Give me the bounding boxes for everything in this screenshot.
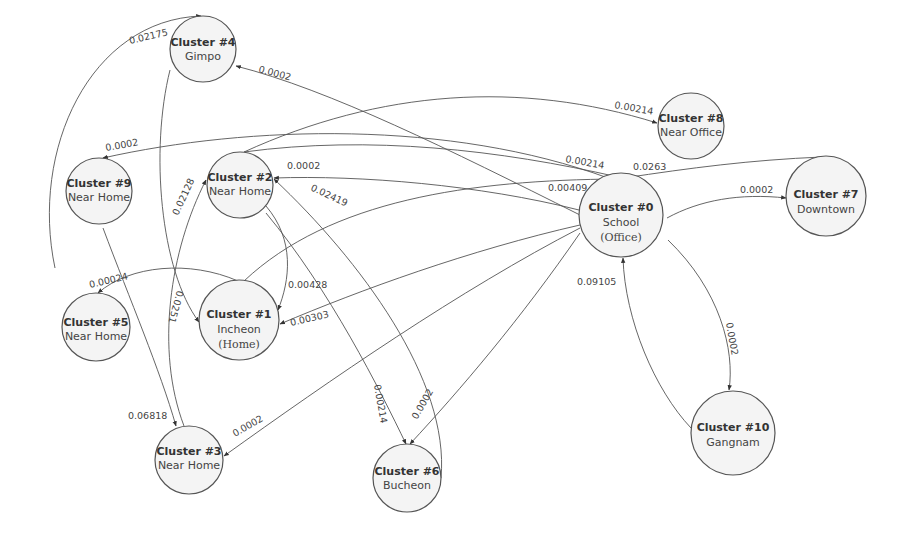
edge-label-c5-c4: 0.02175 [128,26,169,46]
node-cluster-8-near-office: Cluster #8 Near Office [658,93,724,159]
edge-c0-to-c7 [667,196,786,218]
edge-c2-to-c8 [244,97,657,152]
node-subtitle: Gimpo [185,50,221,63]
edge-label-c4-c1: 0.0251 [166,289,185,324]
node-subtitle: Near Office [660,126,722,139]
node-title: Cluster #4 [170,36,235,49]
edge-label-c0-c7: 0.0002 [740,184,773,195]
edge-c1-to-c0 [244,179,618,281]
node-cluster-0-school-office: Cluster #0 School (Office) [579,173,663,257]
node-subtitle: Near Home [209,185,271,198]
edge-label-c0-c9: 0.0002 [104,136,139,153]
node-subtitle: School [603,216,640,229]
edge-c10-to-c0 [623,258,691,428]
node-title: Cluster #9 [66,177,131,190]
node-title: Cluster #0 [588,201,653,214]
edge-label-c7-c0: 0.0263 [633,161,666,172]
edge-label-c2-c6: 0.00214 [372,383,390,424]
node-cluster-1-incheon-home: Cluster #1 Incheon (Home) [199,280,279,360]
node-cluster-10-gangnam: Cluster #10 Gangnam [691,391,775,475]
node-cluster-9-near-home: Cluster #9 Near Home [66,158,132,224]
node-title: Cluster #5 [63,316,128,329]
node-cluster-5-near-home: Cluster #5 Near Home [62,293,130,361]
edge-label-c0-c2: 0.0002 [287,160,320,171]
node-subtitle: Near Home [65,330,127,343]
edge-label-c0-c4: 0.0002 [257,63,292,82]
edge-c6-to-c2 [274,179,442,478]
edge-label-c2-c8: 0.00214 [614,99,655,117]
node-title: Cluster #6 [374,465,439,478]
edge-label-c0-c3: 0.0002 [231,413,265,439]
node-subtitle: Near Home [158,459,220,472]
node-subtitle: Incheon [217,323,261,336]
edge-label-c2-c1: 0.00428 [288,279,327,290]
node-title: Cluster #1 [206,308,271,321]
node-cluster-2-near-home: Cluster #2 Near Home [207,152,273,218]
edge-label-c1-c0: 0.00409 [548,182,587,193]
node-title: Cluster #8 [658,112,723,125]
node-cluster-4-gimpo: Cluster #4 Gimpo [170,16,236,82]
edge-label-c1-c5: 0.00024 [88,270,129,290]
node-subtitle: Near Home [68,191,130,204]
node-cluster-6-bucheon: Cluster #6 Bucheon [373,444,441,512]
node-subtitle: Gangnam [706,436,760,449]
edge-c0-to-c10 [668,240,730,390]
node-title: Cluster #10 [697,421,770,434]
edge-label-c6-c2: 0.02419 [309,182,349,209]
cluster-transition-diagram: 0.02175 0.0002 0.00214 0.0002 0.00214 0.… [0,0,902,538]
node-subtitle-2: (Home) [218,338,260,351]
node-cluster-3-near-home: Cluster #3 Near Home [155,426,223,494]
edge-label-c10-c0: 0.09105 [577,276,616,287]
node-subtitle: Downtown [797,203,855,216]
edge-c0-to-c3 [224,228,580,456]
node-subtitle: Bucheon [383,479,431,492]
edge-c0-to-c6 [410,233,580,444]
edge-c0-to-c9 [103,134,608,178]
node-title: Cluster #3 [156,445,221,458]
node-title: Cluster #7 [793,188,858,201]
node-title: Cluster #2 [207,171,272,184]
node-cluster-7-downtown: Cluster #7 Downtown [786,156,866,236]
edge-label-c9-c3: 0.06818 [128,410,167,421]
edge-label-c2-c0: 0.00214 [565,153,606,171]
node-subtitle-2: (Office) [600,231,642,244]
